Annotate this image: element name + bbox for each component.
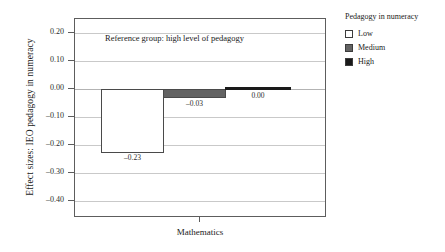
plot-area: Reference group: high level of pedagogy … <box>74 18 326 217</box>
legend-swatch-low-icon <box>345 30 353 38</box>
gridline--0.40 <box>75 201 325 202</box>
legend-item-high[interactable]: High <box>345 56 445 68</box>
legend-title: Pedagogy in numeracy <box>345 12 445 22</box>
y-tick-label-4: –0.20 <box>4 140 64 148</box>
bar-label-low: –0.23 <box>101 154 164 162</box>
legend-swatch-high-icon <box>345 58 353 66</box>
y-tick-label-1: 0.10 <box>4 56 64 64</box>
y-tick-label-2: 0.00 <box>4 84 64 92</box>
bar-medium[interactable] <box>163 89 226 98</box>
y-tick-label-0: 0.20 <box>4 28 64 36</box>
gridline-0.10 <box>75 61 325 62</box>
bar-label-medium: –0.03 <box>163 100 226 108</box>
bar-label-high: 0.00 <box>225 92 291 100</box>
legend-label-medium: Medium <box>358 43 385 53</box>
y-tick-label-3: –0.10 <box>4 112 64 120</box>
legend-label-low: Low <box>358 29 373 39</box>
legend-swatch-medium-icon <box>345 44 353 52</box>
bar-high[interactable] <box>225 87 291 90</box>
bar-chart-figure: Effect sizes: IEO pedagogy in numeracy 0… <box>0 0 445 252</box>
legend-item-low[interactable]: Low <box>345 28 445 40</box>
legend-item-medium[interactable]: Medium <box>345 42 445 54</box>
legend: Pedagogy in numeracy Low Medium High <box>345 12 445 70</box>
x-axis-label: Mathematics <box>74 227 326 237</box>
reference-group-annotation: Reference group: high level of pedagogy <box>105 33 244 43</box>
gridline--0.30 <box>75 173 325 174</box>
x-tick-mark <box>199 217 200 222</box>
y-tick-label-6: –0.40 <box>4 196 64 204</box>
legend-label-high: High <box>358 57 374 67</box>
bar-low[interactable] <box>101 89 164 153</box>
y-tick-label-5: –0.30 <box>4 168 64 176</box>
